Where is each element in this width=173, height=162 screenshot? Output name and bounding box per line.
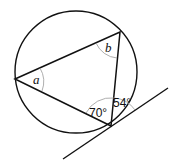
angle-70-label: 70° xyxy=(89,106,107,120)
angle-a-arc xyxy=(40,68,44,91)
angle-a-label: a xyxy=(33,72,40,87)
geometry-diagram: a b 70° 54° xyxy=(0,0,173,162)
angle-54-label: 54° xyxy=(113,96,131,110)
angle-b-label: b xyxy=(105,40,112,55)
